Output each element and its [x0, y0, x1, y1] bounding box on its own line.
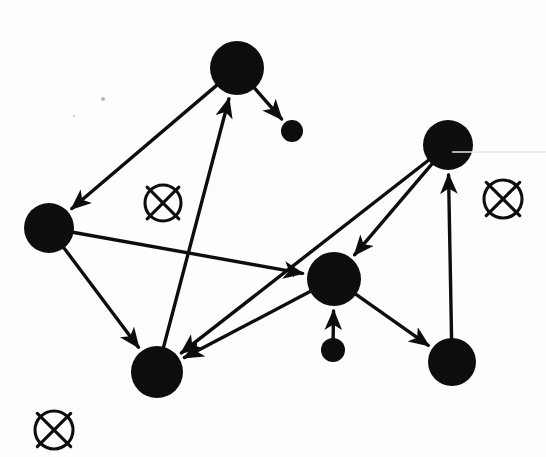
graph-node[interactable] [281, 120, 303, 142]
graph-node[interactable] [428, 338, 476, 386]
artifacts-layer [73, 97, 546, 152]
graph-edge [181, 160, 429, 353]
graph-edge [63, 247, 138, 347]
scan-artifact-speck [73, 115, 75, 117]
graph-svg [0, 0, 546, 457]
graph-node[interactable] [131, 346, 183, 398]
graph-edge [355, 294, 428, 345]
graph-edge [73, 232, 303, 273]
graph-node[interactable] [210, 41, 264, 95]
graph-node[interactable] [321, 338, 345, 362]
circled-x-marker [145, 185, 181, 221]
circled-x-marker [35, 411, 73, 449]
graph-edge [163, 99, 229, 348]
nodes-layer [24, 41, 476, 398]
graph-node[interactable] [423, 120, 473, 170]
edges-layer [63, 85, 451, 358]
circled-x-marker [484, 180, 522, 218]
graph-node[interactable] [307, 252, 361, 306]
graph-edge [449, 175, 452, 339]
graph-edge [254, 88, 281, 119]
graph-node[interactable] [24, 203, 74, 253]
diagram-canvas [0, 0, 546, 457]
graph-edge [72, 85, 217, 209]
scan-artifact-speck [101, 97, 105, 101]
